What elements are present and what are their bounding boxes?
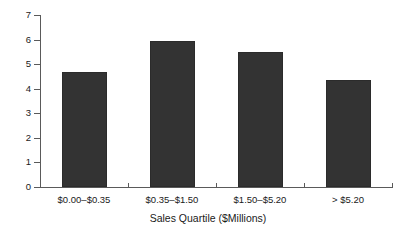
x-axis-tick: [392, 183, 393, 188]
y-axis-tick-label: 0: [0, 182, 31, 192]
bar: [62, 72, 107, 187]
y-axis-tick-label: 5: [0, 59, 31, 69]
x-axis-category-label: $1.50–$5.20: [216, 194, 304, 205]
y-axis-tick-label: 7: [0, 10, 31, 20]
y-axis-tick-label: 6: [0, 35, 31, 45]
y-axis-tick-label: 1: [0, 157, 31, 167]
x-axis-category-label: > $5.20: [304, 194, 392, 205]
x-axis-title: Sales Quartile ($Millions): [0, 212, 416, 224]
bar: [326, 80, 371, 187]
bar: [238, 52, 283, 187]
bar-chart: 01234567 $0.00–$0.35$0.35–$1.50$1.50–$5.…: [0, 0, 416, 238]
y-axis-tick-label: 4: [0, 84, 31, 94]
plot-area: [40, 15, 392, 187]
x-axis-category-label: $0.35–$1.50: [128, 194, 216, 205]
x-axis-category-label: $0.00–$0.35: [40, 194, 128, 205]
bar: [150, 41, 195, 187]
y-axis-tick-label: 2: [0, 133, 31, 143]
y-axis-tick-label: 3: [0, 108, 31, 118]
